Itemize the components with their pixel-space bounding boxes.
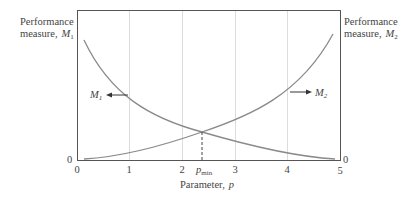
y-right-label-line2: measure,M2 xyxy=(344,28,398,41)
m2-label: M2 xyxy=(314,87,328,100)
series-m2-line xyxy=(84,34,333,159)
x-axis-label: Parameter,p xyxy=(180,179,234,190)
m1-arrow-icon xyxy=(106,93,128,98)
gridlines xyxy=(130,10,288,160)
plot-frame xyxy=(78,11,341,161)
svg-text:2: 2 xyxy=(179,164,184,175)
svg-text:5: 5 xyxy=(337,165,342,176)
chart: M1 M2 Performance measure,M1 Performance… xyxy=(0,0,415,197)
svg-text:1: 1 xyxy=(126,164,131,175)
y-left-zero: 0 xyxy=(67,154,72,165)
series-m1-line xyxy=(84,40,335,159)
m1-label: M1 xyxy=(89,89,102,102)
y-left-label-line2: measure,M1 xyxy=(20,28,74,41)
svg-text:4: 4 xyxy=(284,164,290,175)
pmin-label: pmin xyxy=(195,164,213,177)
y-right-label-line1: Performance xyxy=(344,16,398,27)
y-right-zero: 0 xyxy=(343,154,348,165)
svg-text:3: 3 xyxy=(232,164,237,175)
m2-arrow-icon xyxy=(290,90,312,95)
y-left-label-line1: Performance xyxy=(20,16,74,27)
svg-text:0: 0 xyxy=(74,164,79,175)
